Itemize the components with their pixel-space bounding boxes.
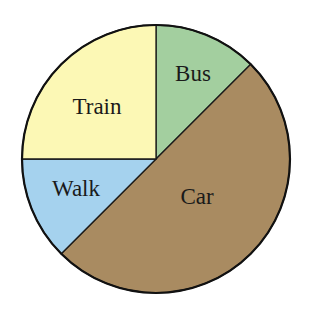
label-train: Train	[73, 94, 122, 119]
slice-train	[22, 25, 156, 159]
label-bus: Bus	[175, 61, 211, 86]
pie-slices	[22, 25, 290, 293]
label-car: Car	[180, 184, 214, 209]
label-walk: Walk	[52, 176, 100, 201]
pie-chart: Bus Train Walk Car	[0, 0, 309, 328]
